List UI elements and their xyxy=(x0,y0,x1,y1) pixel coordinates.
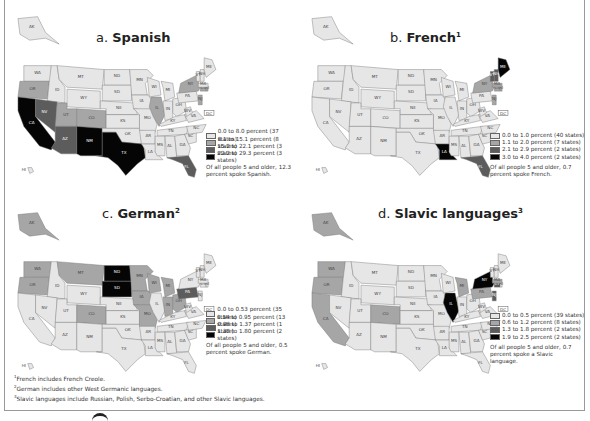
svg-text:DC: DC xyxy=(500,307,506,312)
svg-text:MN: MN xyxy=(430,273,437,278)
svg-text:MT: MT xyxy=(372,74,379,79)
svg-text:WY: WY xyxy=(374,95,381,100)
legend-item: 3.0 to 4.0 percent (2 states) xyxy=(490,154,584,161)
svg-text:AK: AK xyxy=(29,24,35,29)
legend-label: 0.0 to 1.0 percent (40 states) xyxy=(502,132,584,139)
legend-label: 2.1 to 2.9 percent (2 states) xyxy=(502,146,581,153)
svg-text:NV: NV xyxy=(41,305,47,310)
svg-text:NH: NH xyxy=(199,267,205,272)
svg-text:OR: OR xyxy=(30,86,36,91)
svg-text:GA: GA xyxy=(180,338,186,343)
svg-text:AR: AR xyxy=(145,329,151,334)
svg-text:LA: LA xyxy=(148,149,153,154)
legend-item: 1.1 to 2.0 percent (7 states) xyxy=(490,139,584,146)
svg-text:WA: WA xyxy=(34,70,41,75)
svg-text:MI: MI xyxy=(166,283,171,288)
svg-text:OR: OR xyxy=(324,86,330,91)
svg-text:CA: CA xyxy=(323,316,329,321)
legend-item: 0.0 to 0.5 percent (39 states) xyxy=(490,312,584,319)
svg-text:WI: WI xyxy=(446,280,451,285)
svg-text:KS: KS xyxy=(414,118,420,123)
svg-text:KY: KY xyxy=(170,118,176,123)
svg-text:WI: WI xyxy=(152,84,157,89)
svg-text:MO: MO xyxy=(438,311,445,316)
svg-text:LA: LA xyxy=(442,345,447,350)
svg-text:MO: MO xyxy=(438,115,445,120)
svg-text:CA: CA xyxy=(29,120,35,125)
svg-text:ME: ME xyxy=(206,260,213,265)
svg-text:MS: MS xyxy=(451,338,458,343)
svg-text:MA: MA xyxy=(494,277,501,282)
map-panel-spanish: WAORCAIDNVMTWYUTAZCONMNDSDNEKSOKTXMNIAMO… xyxy=(6,4,296,194)
svg-text:MA: MA xyxy=(494,81,501,86)
legend-swatch xyxy=(206,154,215,160)
svg-text:MT: MT xyxy=(78,270,85,275)
svg-text:ME: ME xyxy=(206,64,213,69)
svg-text:CO: CO xyxy=(382,115,388,120)
svg-text:WY: WY xyxy=(374,291,381,296)
svg-text:CO: CO xyxy=(88,115,94,120)
svg-text:OR: OR xyxy=(30,282,36,287)
legend-label: 0.6 to 1.2 percent (8 states) xyxy=(502,319,581,326)
svg-text:ND: ND xyxy=(114,73,120,78)
legend-swatch xyxy=(490,154,500,160)
svg-text:WA: WA xyxy=(328,266,335,271)
state-ak xyxy=(18,213,59,240)
footnote-2: 2German includes other West Germanic lan… xyxy=(14,383,265,393)
svg-text:FL: FL xyxy=(478,164,483,169)
legend-label: 0.0 to 0.5 percent (39 states) xyxy=(502,312,584,319)
svg-text:AZ: AZ xyxy=(356,332,362,337)
svg-text:IN: IN xyxy=(460,106,464,111)
svg-text:FL: FL xyxy=(478,360,483,365)
state-ak xyxy=(312,17,353,44)
state-fl xyxy=(461,352,490,374)
svg-text:NH: NH xyxy=(493,267,499,272)
legend-note: Of all people 5 and older, 0.7 percent s… xyxy=(490,344,576,365)
legend-item: 1.38 to 1.80 percent (2 states) xyxy=(206,332,296,339)
svg-text:ME: ME xyxy=(500,64,507,69)
svg-text:DC: DC xyxy=(206,111,212,116)
svg-text:MO: MO xyxy=(144,115,151,120)
svg-text:NJ: NJ xyxy=(198,96,202,101)
map-legend: 0.0 to 1.0 percent (40 states)1.1 to 2.0… xyxy=(490,132,584,178)
svg-text:WV: WV xyxy=(478,304,485,309)
svg-text:OK: OK xyxy=(125,327,131,332)
svg-text:SD: SD xyxy=(114,285,120,290)
legend-swatch xyxy=(490,140,500,146)
legend-item: 22.2 to 29.3 percent (3 states) xyxy=(206,154,296,161)
svg-text:WA: WA xyxy=(34,266,41,271)
state-fl xyxy=(167,352,196,374)
svg-text:TN: TN xyxy=(167,128,174,133)
map-panel-slavic-languages: WAORCAIDNVMTWYUTAZCONMNDSDNEKSOKTXMNIAMO… xyxy=(300,200,590,390)
svg-text:NC: NC xyxy=(193,125,199,130)
legend-swatch xyxy=(206,140,216,146)
map-panel-french: WAORCAIDNVMTWYUTAZCONMNDSDNEKSOKTXMNIAMO… xyxy=(300,4,590,194)
svg-text:NJ: NJ xyxy=(198,292,202,297)
svg-text:AR: AR xyxy=(439,329,445,334)
map-panel-german: WAORCAIDNVMTWYUTAZCONMNDSDNEKSOKTXMNIAMO… xyxy=(6,200,296,390)
svg-text:OK: OK xyxy=(125,131,131,136)
svg-text:SD: SD xyxy=(408,285,414,290)
svg-text:AZ: AZ xyxy=(62,332,68,337)
svg-text:CA: CA xyxy=(29,316,35,321)
state-fl xyxy=(461,156,490,178)
svg-text:UT: UT xyxy=(63,112,69,117)
svg-text:AK: AK xyxy=(323,220,329,225)
svg-text:MN: MN xyxy=(136,273,143,278)
svg-text:NH: NH xyxy=(493,71,499,76)
svg-text:WV: WV xyxy=(184,304,191,309)
svg-text:IN: IN xyxy=(166,106,170,111)
svg-text:TX: TX xyxy=(120,150,127,155)
map-title: b. French1 xyxy=(390,30,461,45)
legend-swatch xyxy=(490,327,500,333)
svg-text:KS: KS xyxy=(120,314,126,319)
svg-text:PA: PA xyxy=(479,289,484,294)
svg-text:ND: ND xyxy=(408,269,414,274)
legend-label: 3.0 to 4.0 percent (2 states) xyxy=(502,154,581,161)
legend-swatch xyxy=(490,313,500,319)
svg-text:NC: NC xyxy=(193,321,199,326)
svg-text:MO: MO xyxy=(144,311,151,316)
svg-text:TN: TN xyxy=(461,324,468,329)
svg-text:AR: AR xyxy=(145,133,151,138)
svg-text:CO: CO xyxy=(88,311,94,316)
